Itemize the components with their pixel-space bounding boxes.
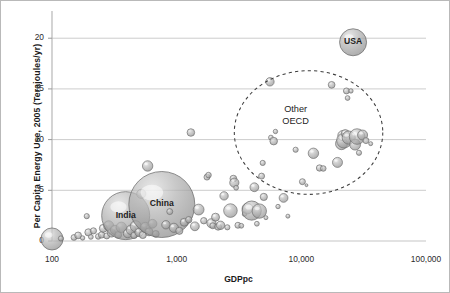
bubble-highlight (144, 163, 148, 166)
bubble-point (369, 142, 373, 146)
bubble-point (176, 227, 183, 234)
bubble-highlight (310, 150, 314, 153)
bubble-point (273, 129, 277, 133)
bubble-point (308, 148, 318, 158)
bubble-highlight (252, 185, 255, 187)
bubble-point (206, 172, 212, 178)
bubble-point (270, 137, 278, 145)
other-oecd-label: OtherOECD (261, 104, 331, 127)
bubble-highlight (334, 159, 337, 161)
bubble-highlight (163, 222, 166, 224)
india-label: India (91, 210, 161, 220)
bubble-highlight (136, 230, 139, 232)
bubble-point (299, 179, 305, 185)
bubble-point (167, 209, 173, 215)
bubble-point (201, 218, 207, 224)
bubble-point (234, 185, 239, 190)
bubble-point (250, 183, 259, 192)
bubble-point (186, 217, 192, 223)
bubble-point (279, 194, 288, 203)
bubble-point (276, 204, 280, 208)
bubble-point (84, 214, 89, 219)
bubble-point (88, 235, 93, 240)
bubble-highlight (246, 205, 253, 210)
bubble-point (224, 204, 238, 218)
bubble-highlight (345, 134, 349, 137)
bubble-point (239, 223, 244, 228)
bubble-point (90, 228, 96, 234)
bubble-point (162, 221, 170, 229)
bubble-highlight (208, 221, 211, 223)
bubble-point (190, 222, 199, 231)
bubble-point (332, 157, 342, 167)
bubble-point (187, 129, 195, 137)
bubble-point (225, 225, 230, 230)
bubble-point (80, 236, 84, 240)
bubble-highlight (226, 207, 231, 210)
bubble-point (260, 193, 267, 200)
bubble-highlight (359, 132, 362, 134)
bubble-point (142, 161, 152, 171)
bubble-point (286, 214, 290, 218)
bubble-point (356, 150, 361, 155)
bubble-highlight (231, 180, 234, 182)
bubble-highlight (281, 195, 284, 197)
bubble-point (293, 147, 298, 152)
bubble-point (216, 221, 224, 229)
bubble-highlight (171, 225, 174, 227)
bubble-point (58, 236, 63, 241)
bubble-point (259, 173, 265, 179)
bubble-highlight (352, 132, 357, 136)
bubble-highlight (45, 232, 52, 237)
bubble-point (349, 89, 353, 93)
bubble-chart-figure: Per Capita Energy Use, 2005 (Terajoules/… (0, 0, 450, 293)
axis-lines (48, 11, 52, 241)
bubble-highlight (192, 224, 195, 226)
bubble-point (328, 81, 335, 88)
bubble-point (220, 192, 228, 200)
bubble-highlight (255, 207, 260, 210)
bubble-highlight (221, 193, 224, 195)
bubble-point (254, 221, 259, 226)
bubble-highlight (101, 226, 104, 228)
bubble-point (363, 138, 369, 144)
bubble-highlight (218, 223, 221, 225)
bubble-point (212, 213, 220, 221)
bubble-point (305, 184, 308, 187)
bubble-highlight (213, 215, 216, 217)
china-label: China (127, 198, 197, 208)
bubble-point (345, 96, 350, 101)
bubble-point (264, 216, 268, 220)
bubble-point (260, 160, 265, 165)
usa-label: USA (318, 36, 388, 46)
bubble-highlight (182, 220, 185, 222)
bubble-point (320, 166, 326, 172)
